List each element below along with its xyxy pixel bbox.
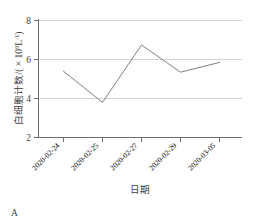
y-axis-title-close: ) [13,32,25,35]
x-axis-title: 日期 [130,184,150,195]
white-blood-cell-count-line-chart: 8 6 4 2 2020-02-24 2020-02-25 2020-02-27… [0,0,253,224]
y-tick-label-8: 8 [26,16,31,26]
y-tick-label-2: 2 [26,133,31,143]
panel-label: A [11,208,18,218]
y-axis-title-main: 白细胞计数/( × 10 [13,49,25,125]
y-axis-title: 白细胞计数/( × 109L-1) [13,32,25,125]
figure-panel-a: 8 6 4 2 2020-02-24 2020-02-25 2020-02-27… [0,0,253,224]
chart-background [0,0,253,224]
y-tick-label-6: 6 [26,55,31,65]
y-tick-label-4: 4 [26,94,31,104]
